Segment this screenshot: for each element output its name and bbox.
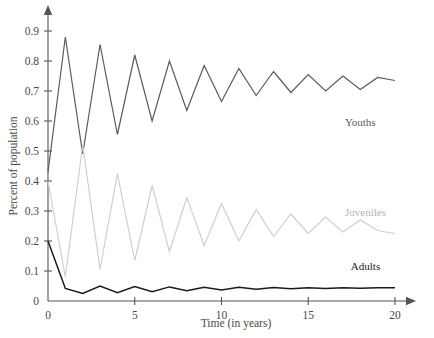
y-tick-label: 0.1 [25,265,40,277]
y-tick-label: 0.9 [25,25,40,37]
y-tick-label: 0.5 [25,145,40,157]
x-tick-label: 5 [132,309,138,321]
y-tick-label: 0.7 [25,85,40,97]
chart-figure: 00.10.20.30.40.50.60.70.80.9 05101520 Yo… [0,0,434,338]
x-axis-label: Time (in years) [201,317,272,330]
chart-canvas: 00.10.20.30.40.50.60.70.80.9 05101520 Yo… [0,0,434,338]
y-axis-label: Percent of population [7,116,20,215]
series-curves [48,37,395,294]
series-label-youths: Youths [345,116,376,128]
series-label-juveniles: Juveniles [345,206,386,218]
series-label-adults: Adults [351,260,380,272]
series-annotations: YouthsJuvenilesAdults [345,116,386,272]
series-line-youths [48,37,395,172]
y-axis-arrow-icon [44,5,52,15]
y-tick-label: 0.2 [25,235,40,247]
y-tick-label: 0.8 [25,55,40,67]
x-axis-arrow-icon [406,297,416,305]
y-tick-label: 0.4 [25,175,40,187]
y-tick-label: 0 [33,295,39,307]
y-tick-label: 0.3 [25,205,40,217]
series-line-juveniles [48,145,395,277]
y-tick-label: 0.6 [25,115,40,127]
x-tick-label: 0 [45,309,51,321]
x-tick-label: 20 [389,309,401,321]
x-tick-label: 15 [303,309,315,321]
y-axis: 00.10.20.30.40.50.60.70.80.9 [25,5,53,307]
